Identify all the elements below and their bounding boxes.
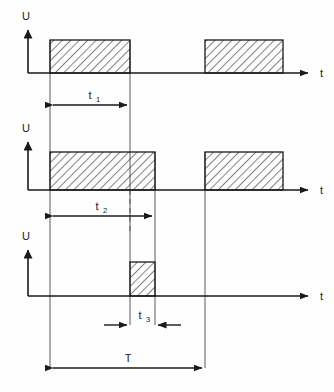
- pulse-timing-diagram: U t t 1 U t t 2 U: [0, 0, 334, 392]
- dimension-t3-group: t 3: [104, 309, 181, 325]
- diagram-canvas: U t t 1 U t t 2 U: [0, 0, 334, 392]
- dimension-t1-label: t: [88, 89, 91, 101]
- dimension-t2-subscript: 2: [103, 206, 107, 215]
- trace-3-group: U t: [22, 230, 323, 302]
- dimension-t3-subscript: 3: [146, 315, 150, 324]
- dimension-period-group: T: [53, 352, 202, 368]
- trace-3-time-axis-label: t: [320, 290, 323, 302]
- trace-1-group: U t: [22, 10, 323, 79]
- trace-3-pulse-1: [130, 262, 155, 296]
- trace-1-pulse-2: [205, 40, 283, 73]
- dimension-t1-subscript: 1: [96, 95, 100, 104]
- dimension-t3-label: t: [138, 309, 141, 321]
- dimension-t1-group: t 1: [53, 89, 127, 105]
- dimension-t2-group: t 2: [53, 200, 152, 216]
- trace-3-voltage-axis-label: U: [22, 230, 30, 242]
- trace-1-time-axis-label: t: [320, 67, 323, 79]
- trace-2-time-axis-label: t: [320, 184, 323, 196]
- trace-2-voltage-axis-label: U: [22, 122, 30, 134]
- dimension-t2-label: t: [95, 200, 98, 212]
- dimension-period-label: T: [125, 352, 132, 364]
- trace-2-group: U t: [22, 122, 323, 196]
- trace-2-pulse-1: [50, 152, 155, 190]
- trace-1-pulse-1: [50, 40, 130, 73]
- construction-lines-group: [50, 40, 205, 368]
- trace-1-voltage-axis-label: U: [22, 10, 30, 22]
- trace-2-pulse-2: [205, 152, 283, 190]
